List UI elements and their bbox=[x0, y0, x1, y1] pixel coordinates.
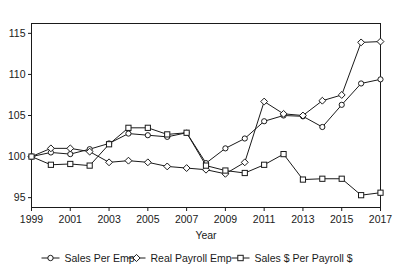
data-point-square bbox=[126, 125, 131, 130]
x-tick-label: 2017 bbox=[369, 213, 393, 225]
data-point-circle bbox=[359, 81, 364, 86]
x-tick-label: 2007 bbox=[175, 213, 199, 225]
y-tick-label: 95 bbox=[14, 191, 26, 203]
data-point-square bbox=[48, 162, 53, 167]
x-tick-label: 2015 bbox=[330, 213, 354, 225]
data-point-diamond bbox=[261, 98, 268, 105]
series-1 bbox=[28, 38, 384, 177]
y-tick-label: 115 bbox=[9, 27, 26, 39]
data-point-diamond bbox=[125, 157, 132, 164]
legend-label: Real Payroll Emp bbox=[151, 252, 232, 264]
data-point-square bbox=[320, 176, 325, 181]
line-chart: 9510010511011519992001200320052007200920… bbox=[0, 0, 393, 240]
data-point-square bbox=[106, 142, 111, 147]
x-tick-label: 2011 bbox=[253, 213, 276, 225]
data-point-square bbox=[165, 132, 170, 137]
x-axis-title: Year bbox=[195, 229, 217, 241]
legend-label: Sales $ Per Payroll $ bbox=[255, 252, 353, 264]
data-point-circle bbox=[145, 133, 150, 138]
legend-item-0: Sales Per Emp bbox=[42, 252, 135, 264]
data-point-square bbox=[359, 193, 364, 198]
chart-legend: Sales Per EmpReal Payroll EmpSales $ Per… bbox=[0, 246, 393, 268]
data-point-diamond bbox=[164, 163, 171, 170]
data-point-square bbox=[203, 163, 208, 168]
data-point-diamond bbox=[358, 39, 365, 46]
data-point-circle bbox=[262, 119, 267, 124]
x-tick-label: 2009 bbox=[214, 213, 238, 225]
data-point-circle bbox=[339, 102, 344, 107]
data-point-diamond bbox=[377, 38, 384, 45]
chart-screenshot: 9510010511011519992001200320052007200920… bbox=[0, 0, 393, 268]
x-tick-label: 2001 bbox=[59, 213, 83, 225]
x-tick-label: 2005 bbox=[136, 213, 160, 225]
data-point-square bbox=[87, 163, 92, 168]
series-line bbox=[32, 42, 381, 174]
data-point-square bbox=[184, 130, 189, 135]
legend-marker-square bbox=[238, 255, 243, 260]
x-tick-label: 2003 bbox=[97, 213, 121, 225]
legend-svg: Sales Per EmpReal Payroll EmpSales $ Per… bbox=[0, 246, 393, 268]
data-point-square bbox=[29, 154, 34, 159]
y-tick-label: 110 bbox=[9, 68, 26, 80]
data-point-diamond bbox=[183, 165, 190, 172]
data-point-diamond bbox=[338, 92, 345, 99]
data-point-square bbox=[68, 161, 73, 166]
data-point-diamond bbox=[67, 145, 74, 152]
data-point-diamond bbox=[241, 159, 248, 166]
data-point-square bbox=[378, 190, 383, 195]
data-point-circle bbox=[126, 131, 131, 136]
data-point-square bbox=[339, 176, 344, 181]
data-point-square bbox=[300, 177, 305, 182]
x-tick-label: 2013 bbox=[291, 213, 315, 225]
series-0 bbox=[29, 77, 383, 166]
plot-frame bbox=[32, 24, 381, 208]
legend-item-1: Real Payroll Emp bbox=[128, 252, 232, 264]
data-point-circle bbox=[242, 136, 247, 141]
data-point-diamond bbox=[144, 159, 151, 166]
data-point-diamond bbox=[106, 159, 113, 166]
data-point-square bbox=[145, 125, 150, 130]
y-tick-label: 100 bbox=[8, 150, 26, 162]
data-point-square bbox=[223, 168, 228, 173]
data-point-circle bbox=[320, 124, 325, 129]
data-point-square bbox=[242, 170, 247, 175]
data-point-square bbox=[281, 152, 286, 157]
data-point-square bbox=[262, 162, 267, 167]
plot-area: 9510010511011519992001200320052007200920… bbox=[0, 0, 393, 240]
y-tick-label: 105 bbox=[8, 109, 26, 121]
legend-item-2: Sales $ Per Payroll $ bbox=[232, 252, 353, 264]
data-point-circle bbox=[378, 77, 383, 82]
legend-marker-circle bbox=[48, 255, 53, 260]
x-tick-label: 1999 bbox=[20, 213, 44, 225]
legend-label: Sales Per Emp bbox=[65, 252, 135, 264]
data-point-circle bbox=[223, 146, 228, 151]
